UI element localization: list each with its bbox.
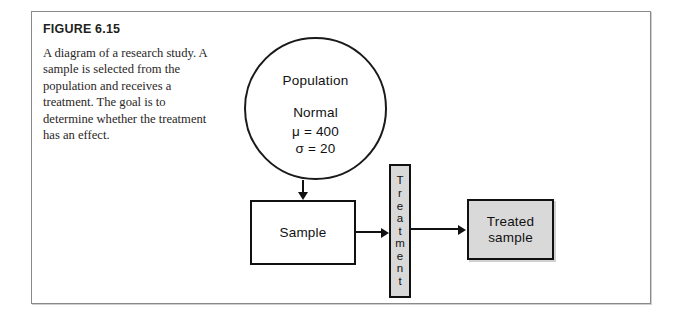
figure-caption-block: FIGURE 6.15 A diagram of a research stud… — [43, 22, 215, 143]
population-circle: Population Normal μ = 400 σ = 20 — [244, 37, 387, 180]
sample-box-label: Sample — [280, 225, 327, 240]
treatment-letter: m — [395, 237, 405, 250]
treated-sample-box: Treatedsample — [467, 199, 554, 260]
treatment-letter: a — [397, 212, 403, 225]
arrow-sample-to-treatment-line — [356, 231, 382, 233]
treated-sample-box-label: Treatedsample — [487, 214, 534, 246]
treatment-letter: t — [398, 225, 401, 238]
population-sd-label: σ = 20 — [296, 141, 336, 156]
arrow-sample-to-treatment-head — [381, 228, 389, 238]
arrow-treatment-to-treated-sample-head — [458, 225, 466, 235]
treated-sample-line1: Treated — [487, 214, 534, 229]
treatment-letter: n — [397, 262, 403, 275]
treated-sample-line2: sample — [488, 230, 533, 245]
treatment-letter: e — [397, 250, 403, 263]
figure-caption-text: A diagram of a research study. A sample … — [43, 45, 215, 143]
population-mean-label: μ = 400 — [292, 124, 339, 139]
treatment-letter: e — [397, 200, 403, 213]
treatment-letter: T — [396, 174, 403, 187]
distribution-name-label: Normal — [293, 105, 338, 120]
figure-frame: FIGURE 6.15 A diagram of a research stud… — [31, 11, 651, 304]
population-title-label: Population — [283, 73, 349, 88]
treatment-letter: r — [398, 187, 402, 200]
treatment-bar: T r e a t m e n t — [389, 164, 411, 298]
sample-box: Sample — [250, 200, 356, 265]
arrow-population-to-sample-head — [298, 192, 308, 200]
treatment-letter: t — [398, 275, 401, 288]
figure-number-label: FIGURE 6.15 — [43, 22, 215, 36]
arrow-treatment-to-treated-sample-line — [411, 228, 459, 230]
